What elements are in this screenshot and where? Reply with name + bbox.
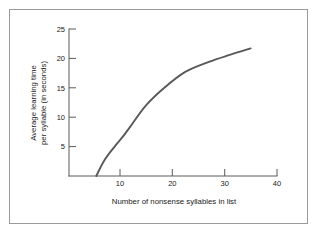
y-axis-title-line2: per syllable (in seconds): [39, 61, 48, 145]
data-series-line: [96, 48, 250, 176]
x-tick-label-10: 10: [116, 179, 124, 188]
chart-plot-area: 25 20 15 10 5 10 20 30 40 Number of nons…: [0, 0, 319, 235]
x-axis-ticks: [120, 169, 277, 176]
y-tick-label-20: 20: [57, 54, 65, 63]
x-axis-title: Number of nonsense syllables in list: [112, 197, 237, 206]
x-tick-label-40: 40: [273, 179, 281, 188]
y-tick-label-15: 15: [57, 84, 65, 93]
x-tick-label-30: 30: [221, 179, 229, 188]
x-axis-tick-labels: 10 20 30 40: [116, 179, 281, 188]
y-axis-tick-labels: 25 20 15 10 5: [57, 25, 65, 152]
x-tick-label-20: 20: [168, 179, 176, 188]
y-axis-ticks: [69, 29, 76, 147]
y-axis-title-line1: Average learning time: [29, 65, 38, 141]
y-tick-label-10: 10: [57, 113, 65, 122]
y-tick-label-25: 25: [57, 25, 65, 34]
chart-figure: 25 20 15 10 5 10 20 30 40 Number of nons…: [0, 0, 319, 235]
y-tick-label-5: 5: [61, 142, 65, 151]
